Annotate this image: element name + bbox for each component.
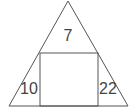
left-region-label: 10 — [20, 80, 38, 97]
top-region-label: 7 — [64, 27, 73, 44]
inscribed-rectangle — [40, 53, 98, 106]
right-region-label: 22 — [99, 80, 117, 97]
triangle-diagram: 7 10 22 — [0, 0, 140, 112]
